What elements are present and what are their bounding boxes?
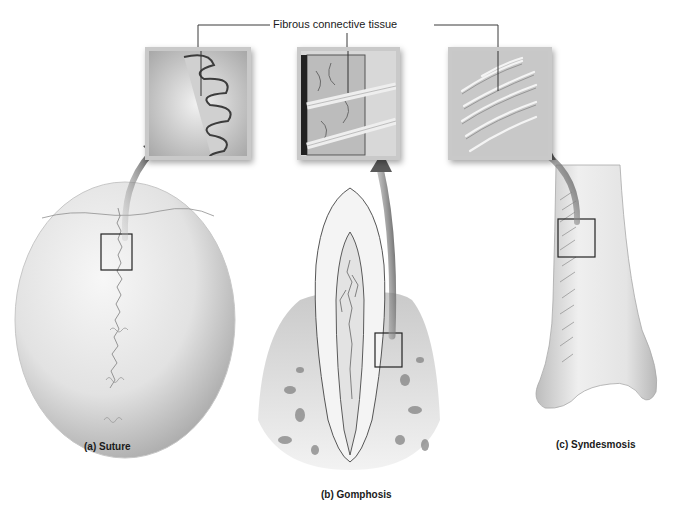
suture-inset [145, 47, 251, 160]
panel-label-suture: (a) Suture [84, 441, 131, 452]
syndesmosis-inset [448, 47, 552, 160]
panel-label-syndesmosis: (c) Syndesmosis [556, 439, 635, 450]
gomphosis-inset [297, 47, 400, 160]
bone-illustration [536, 165, 657, 408]
tooth-illustration [258, 188, 440, 470]
panel-label-gomphosis: (b) Gomphosis [321, 489, 392, 500]
fibrous-tissue-label: Fibrous connective tissue [270, 18, 400, 30]
